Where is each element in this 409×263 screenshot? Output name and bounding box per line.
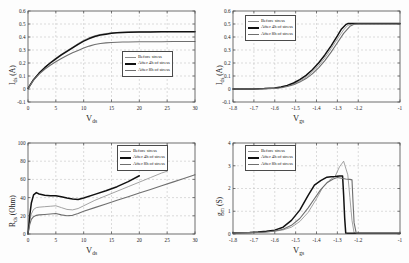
svg-text:0.1: 0.1 [19, 73, 26, 79]
svg-text:40: 40 [20, 195, 26, 201]
subplot-gm-vgs: -1.8-1.7-1.6-1.5-1.4-1.3-1.2-101234 gm (… [205, 132, 409, 263]
svg-text:-1.4: -1.4 [312, 105, 321, 111]
plot-canvas-ids-vds: 051015202530-0.100.10.20.30.40.50.6 [0, 0, 204, 131]
svg-text:0.6: 0.6 [224, 8, 231, 14]
legend-item-after-8h: After 8h of stress [248, 161, 293, 168]
legend-ids-vds: Before stress After 4h of stress After 8… [122, 51, 173, 77]
subplot-ids-vgs: -1.8-1.7-1.6-1.5-1.4-1.3-1.2-1-0.100.10.… [205, 0, 409, 131]
svg-text:-1.3: -1.3 [333, 105, 342, 111]
svg-text:-1: -1 [398, 105, 403, 111]
plot-canvas-rds-vds: 051015202530020406080100 [0, 132, 204, 263]
svg-text:0.2: 0.2 [224, 60, 231, 66]
x-axis-label-vgs: Vgs [293, 113, 304, 123]
svg-text:-1.8: -1.8 [229, 237, 238, 243]
legend-line-icon [248, 21, 259, 22]
legend-item-before-stress: Before stress [248, 148, 293, 155]
svg-text:0.4: 0.4 [19, 34, 26, 40]
legend-label: After 8h of stress [133, 161, 165, 168]
svg-text:0.3: 0.3 [19, 47, 26, 53]
svg-text:0.5: 0.5 [19, 21, 26, 27]
legend-line-icon [125, 57, 136, 58]
legend-item-before-stress: Before stress [120, 148, 165, 155]
svg-text:-1.2: -1.2 [354, 237, 363, 243]
svg-text:5: 5 [55, 237, 58, 243]
svg-text:10: 10 [81, 237, 87, 243]
svg-text:4: 4 [228, 140, 231, 146]
svg-text:0: 0 [23, 231, 26, 237]
legend-line-icon [125, 70, 136, 71]
legend-label: Before stress [261, 18, 285, 25]
legend-item-after-8h: After 8h of stress [120, 161, 165, 168]
svg-text:5: 5 [55, 105, 58, 111]
svg-text:-0.1: -0.1 [17, 99, 26, 105]
svg-text:-1.7: -1.7 [250, 237, 259, 243]
legend-label: After 8h of stress [261, 161, 293, 168]
subplot-rds-vds: 051015202530020406080100 Rds (Ohm) Vds B… [0, 132, 204, 263]
svg-text:-0.1: -0.1 [222, 99, 231, 105]
svg-text:20: 20 [20, 213, 26, 219]
svg-text:0.2: 0.2 [19, 60, 26, 66]
svg-text:10: 10 [81, 105, 87, 111]
y-axis-label-ids: Ids (A) [215, 65, 224, 85]
x-axis-label-vgs: Vgs [293, 245, 304, 255]
legend-item-after-8h: After 8h of stress [125, 67, 170, 74]
x-axis-label-vds: Vds [86, 113, 97, 123]
svg-text:25: 25 [165, 105, 171, 111]
svg-text:20: 20 [137, 237, 143, 243]
legend-item-after-4h: After 4h of stress [248, 154, 293, 161]
figure-panel: 051015202530-0.100.10.20.30.40.50.6 Ids … [0, 0, 409, 263]
legend-ids-vgs: Before stress After 4h of stress After 8… [245, 15, 296, 41]
svg-text:30: 30 [192, 105, 198, 111]
svg-text:-1.5: -1.5 [292, 237, 301, 243]
legend-label: Before stress [261, 148, 285, 155]
x-axis-label-vds: Vds [86, 245, 97, 255]
plot-canvas-gm-vgs: -1.8-1.7-1.6-1.5-1.4-1.3-1.2-101234 [205, 132, 409, 263]
svg-text:-1.4: -1.4 [312, 237, 321, 243]
legend-item-after-8h: After 8h of stress [248, 31, 293, 38]
legend-line-icon [248, 164, 259, 165]
legend-item-after-4h: After 4h of stress [125, 60, 170, 67]
svg-text:60: 60 [20, 176, 26, 182]
legend-label: After 4h of stress [133, 154, 165, 161]
legend-label: After 8h of stress [138, 67, 170, 74]
svg-text:-1.6: -1.6 [271, 237, 280, 243]
legend-line-icon [248, 27, 259, 29]
legend-item-before-stress: Before stress [248, 18, 293, 25]
legend-label: Before stress [138, 54, 162, 61]
svg-text:2: 2 [228, 185, 231, 191]
svg-text:0: 0 [228, 231, 231, 237]
svg-text:15: 15 [109, 105, 115, 111]
legend-label: After 4h of stress [261, 24, 293, 31]
svg-text:-1.2: -1.2 [354, 105, 363, 111]
legend-line-icon [248, 34, 259, 35]
legend-line-icon [248, 157, 259, 159]
legend-gm-vgs: Before stress After 4h of stress After 8… [245, 145, 296, 171]
svg-text:0: 0 [228, 86, 231, 92]
legend-label: Before stress [133, 148, 157, 155]
legend-item-after-4h: After 4h of stress [248, 24, 293, 31]
legend-line-icon [120, 151, 131, 152]
svg-text:20: 20 [137, 105, 143, 111]
legend-line-icon [248, 151, 259, 152]
svg-text:-1.6: -1.6 [271, 105, 280, 111]
subplot-ids-vds: 051015202530-0.100.10.20.30.40.50.6 Ids … [0, 0, 204, 131]
svg-text:-1.7: -1.7 [250, 105, 259, 111]
svg-text:80: 80 [20, 158, 26, 164]
svg-text:0.3: 0.3 [224, 47, 231, 53]
legend-item-before-stress: Before stress [125, 54, 170, 61]
legend-label: After 4h of stress [261, 154, 293, 161]
svg-text:-1: -1 [398, 237, 403, 243]
y-axis-label-ids: Ids (A) [8, 65, 17, 85]
svg-text:30: 30 [192, 237, 198, 243]
svg-text:0.6: 0.6 [19, 8, 26, 14]
svg-text:15: 15 [109, 237, 115, 243]
legend-line-icon [120, 157, 131, 159]
legend-rds-vds: Before stress After 4h of stress After 8… [117, 145, 168, 171]
svg-text:0: 0 [27, 105, 30, 111]
y-axis-label-rds: Rds (Ohm) [8, 195, 17, 227]
plot-canvas-ids-vgs: -1.8-1.7-1.6-1.5-1.4-1.3-1.2-1-0.100.10.… [205, 0, 409, 131]
svg-text:-1.8: -1.8 [229, 105, 238, 111]
svg-text:1: 1 [228, 208, 231, 214]
legend-item-after-4h: After 4h of stress [120, 154, 165, 161]
svg-text:25: 25 [165, 237, 171, 243]
